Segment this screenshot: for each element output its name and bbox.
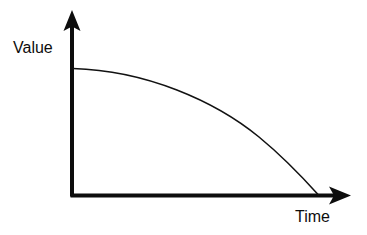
decay-curve-figure: Value Time	[0, 0, 367, 235]
y-axis-label: Value	[13, 39, 53, 56]
x-axis-label: Time	[295, 208, 330, 225]
chart-background	[0, 0, 367, 235]
chart-canvas: Value Time	[0, 0, 367, 235]
